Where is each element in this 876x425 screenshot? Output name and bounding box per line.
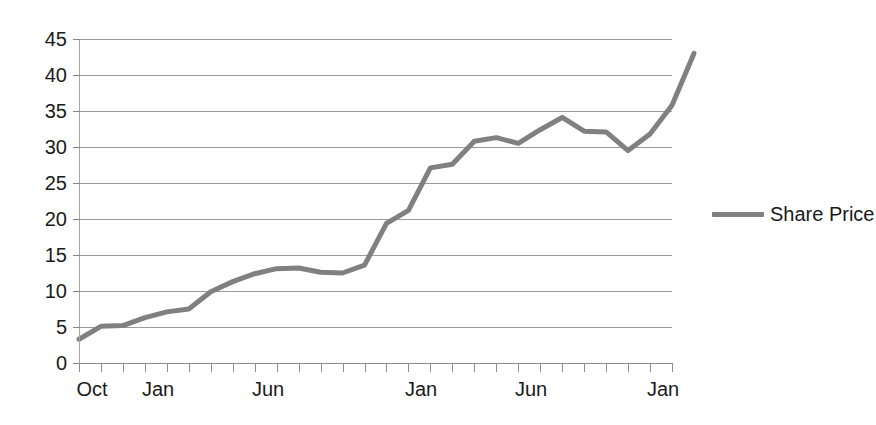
x-axis-label: Jan — [142, 378, 174, 400]
chart-legend: Share Price — [712, 203, 875, 225]
legend-label-share-price: Share Price — [770, 203, 875, 225]
x-axis-label: Jan — [647, 378, 679, 400]
x-axis-label: Jun — [515, 378, 547, 400]
legend-line-swatch — [712, 212, 764, 217]
x-axis-label: Jan — [405, 378, 437, 400]
x-axis-label: Oct — [76, 378, 107, 400]
line-chart: 051015202530354045 OctJanJunJanJunJan Sh… — [0, 0, 876, 425]
x-axis-label: Jun — [252, 378, 284, 400]
